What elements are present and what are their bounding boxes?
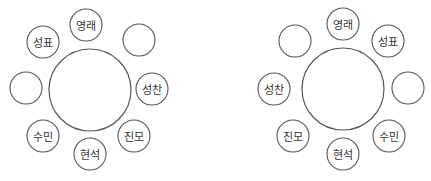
round-table — [49, 49, 131, 131]
seat-label: 현석 — [333, 149, 353, 162]
seat: 영래 — [327, 8, 359, 40]
seat: 진모 — [277, 120, 309, 152]
seat-label: 성찬 — [264, 83, 284, 97]
seat-label: 진모 — [124, 131, 144, 144]
seat: 현석 — [74, 138, 106, 170]
seat-label: 영래 — [76, 20, 96, 33]
empty-seat — [10, 72, 42, 104]
seat-circle — [10, 72, 42, 104]
seat-circle — [279, 25, 311, 57]
seat: 현석 — [327, 138, 359, 170]
seat-label: 수민 — [33, 131, 53, 144]
seat-label: 성찬 — [142, 83, 162, 97]
seat-circle — [392, 72, 424, 104]
seat: 수민 — [27, 120, 59, 152]
round-table — [302, 48, 384, 130]
seat-circle — [123, 24, 155, 56]
seat: 성표 — [372, 25, 404, 57]
seat-label: 수민 — [379, 131, 399, 144]
seat: 성표 — [27, 26, 59, 58]
right-arrangement: 영래성표수민현석진모성찬 — [258, 8, 424, 170]
seat-label: 현석 — [80, 149, 100, 162]
seat: 영래 — [70, 9, 102, 41]
seat-label: 성표 — [33, 37, 53, 50]
empty-seat — [392, 72, 424, 104]
left-arrangement: 영래성찬진모현석수민성표 — [10, 9, 168, 170]
seat: 수민 — [373, 120, 405, 152]
seat: 성찬 — [136, 73, 168, 105]
seat-label: 진모 — [283, 131, 303, 144]
empty-seat — [279, 25, 311, 57]
seating-diagrams: 영래성찬진모현석수민성표영래성표수민현석진모성찬 — [0, 0, 431, 181]
seat-label: 성표 — [378, 36, 398, 49]
empty-seat — [123, 24, 155, 56]
seat-label: 영래 — [333, 19, 353, 32]
seat: 성찬 — [258, 73, 290, 105]
seat: 진모 — [118, 120, 150, 152]
